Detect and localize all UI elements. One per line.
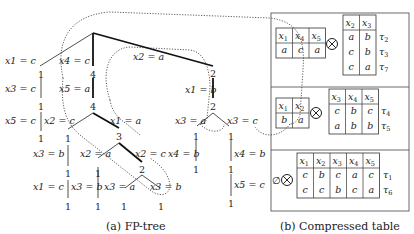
tuple-label: τ3 bbox=[379, 46, 388, 59]
table-group: x1x2bax3x4x5cbcabbτ4τ5 bbox=[276, 89, 390, 134]
edge-label: x1 = b bbox=[185, 84, 216, 95]
table-cell: c bbox=[352, 184, 358, 195]
edge-label: x5 = a bbox=[59, 83, 90, 94]
column-header: x5 bbox=[366, 155, 376, 168]
table-cell: a bbox=[348, 31, 354, 42]
column-header: x5 bbox=[365, 91, 375, 104]
table-cell: c bbox=[298, 44, 304, 55]
table-cell: a bbox=[314, 44, 320, 55]
table-cell: c bbox=[303, 184, 309, 195]
table-cell: c bbox=[336, 169, 342, 180]
column-header: x5 bbox=[312, 30, 322, 43]
node-count: 1 bbox=[65, 201, 71, 212]
node-count: 1 bbox=[228, 198, 234, 209]
table-cell: a bbox=[298, 114, 304, 125]
table-cell: c bbox=[349, 46, 355, 57]
edge-label: x1 = c bbox=[5, 55, 36, 66]
table-cell: c bbox=[335, 105, 341, 116]
table-group: x1x4x5acax2x3abcbcaτ2τ3τ7 bbox=[276, 15, 388, 75]
edge-label: x2 = a bbox=[133, 51, 164, 62]
dotted-region-outer bbox=[61, 12, 303, 124]
table-cell: b bbox=[365, 46, 371, 57]
column-header: x3 bbox=[333, 155, 343, 168]
table-cell: a bbox=[368, 184, 374, 195]
node-count: 2 bbox=[210, 101, 216, 112]
node-count: 1 bbox=[95, 201, 101, 212]
node-count: 4 bbox=[90, 69, 96, 80]
table-cell: a bbox=[352, 169, 358, 180]
edge-label: x3 = b bbox=[150, 181, 181, 192]
tuple-label: τ6 bbox=[383, 184, 392, 197]
fp-tree: x1 = c 1 x3 = c 1 x5 = c 1 x4 = c 4 x5 =… bbox=[5, 12, 303, 233]
column-header: x4 bbox=[348, 91, 358, 104]
column-header: x1 bbox=[279, 100, 289, 113]
table-cell: b bbox=[367, 120, 373, 131]
column-header: x1 bbox=[279, 30, 289, 43]
edge-label: x3 = c bbox=[227, 115, 258, 126]
node-count: 1 bbox=[228, 164, 234, 175]
table-cell: a bbox=[365, 61, 371, 72]
edge-label: x5 = c bbox=[5, 115, 36, 126]
node-count: 2 bbox=[139, 164, 145, 175]
node-count: 2 bbox=[210, 68, 216, 79]
table-cell: c bbox=[368, 105, 374, 116]
column-header: x2 bbox=[295, 100, 305, 113]
node-count: 4 bbox=[90, 101, 96, 112]
table-cell: b bbox=[281, 114, 287, 125]
node-count: 1 bbox=[38, 101, 44, 112]
edge-label: x2 = c bbox=[135, 148, 166, 159]
table-cell: c bbox=[369, 169, 375, 180]
edge-label: x3 = b bbox=[33, 148, 64, 159]
tuple-label: τ1 bbox=[383, 169, 392, 182]
column-header: x4 bbox=[349, 155, 359, 168]
node-count: 1 bbox=[228, 131, 234, 142]
edge-label: x3 = b bbox=[71, 181, 102, 192]
table-cell: b bbox=[365, 31, 371, 42]
table-cell: b bbox=[351, 105, 357, 116]
compressed-table: x1x4x5acax2x3abcbcaτ2τ3τ7x1x2bax3x4x5cbc… bbox=[271, 13, 409, 233]
node-count: 1 bbox=[95, 168, 101, 179]
edge-label: x2 = c bbox=[44, 115, 75, 126]
edge-label: x3 = c bbox=[5, 83, 36, 94]
edge-label: x4 = b bbox=[168, 148, 199, 159]
column-header: x1 bbox=[300, 155, 310, 168]
figure: x1 = c 1 x3 = c 1 x5 = c 1 x4 = c 4 x5 =… bbox=[0, 0, 414, 234]
edge-label: x3 = a bbox=[104, 181, 135, 192]
edge-label: x3 = a bbox=[175, 115, 206, 126]
node-count: 1 bbox=[158, 201, 164, 212]
table-cell: a bbox=[281, 44, 287, 55]
node-count: 1 bbox=[193, 164, 199, 175]
compressed-table-caption: (b) Compressed table bbox=[280, 220, 400, 233]
node-count: 1 bbox=[121, 201, 127, 212]
column-header: x3 bbox=[362, 17, 372, 30]
edge-label: x4 = c bbox=[59, 55, 90, 66]
node-count: 1 bbox=[193, 131, 199, 142]
table-cell: c bbox=[349, 61, 355, 72]
node-count: 1 bbox=[65, 168, 71, 179]
tuple-label: τ4 bbox=[381, 105, 390, 118]
tuple-label: τ5 bbox=[381, 120, 390, 133]
node-count: 1 bbox=[65, 133, 71, 144]
node-count: 1 bbox=[38, 133, 44, 144]
table-group: ∅x1x2x3x4x5cbcacccbcaτ1τ6 bbox=[272, 153, 393, 198]
table-cell: c bbox=[319, 184, 325, 195]
column-header: x2 bbox=[316, 155, 326, 168]
table-cell: b bbox=[351, 120, 357, 131]
column-header: x4 bbox=[295, 30, 305, 43]
column-header: x3 bbox=[332, 91, 342, 104]
table-cell: c bbox=[303, 169, 309, 180]
table-cell: b bbox=[319, 169, 325, 180]
column-header: x2 bbox=[346, 17, 356, 30]
tuple-label: τ2 bbox=[379, 31, 388, 44]
edge-label: x4 = b bbox=[234, 148, 265, 159]
emptyset-symbol: ∅ bbox=[272, 175, 281, 186]
edge-label: x1 = c bbox=[33, 181, 64, 192]
node-count: 1 bbox=[38, 69, 44, 80]
tuple-label: τ7 bbox=[379, 61, 388, 74]
edge-label: x2 = a bbox=[80, 148, 111, 159]
table-cell: b bbox=[335, 184, 341, 195]
fp-tree-caption: (a) FP-tree bbox=[106, 220, 166, 233]
node-count: 3 bbox=[116, 131, 122, 142]
edge-label: x1 = a bbox=[110, 115, 141, 126]
edge-label: x5 = c bbox=[234, 179, 265, 190]
